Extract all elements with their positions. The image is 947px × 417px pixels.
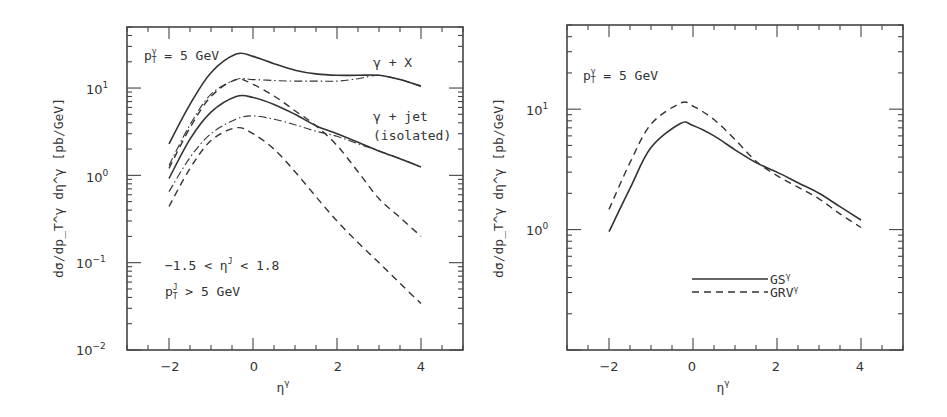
left-y-axis-label: dσ/dp_T^γ dη^γ [pb/GeV] <box>51 98 66 278</box>
xtick-label: 4 <box>856 359 864 374</box>
right-x-axis-label: ηγ <box>716 378 729 395</box>
annotation-isolated: (isolated) <box>373 128 451 143</box>
left-y-tick-labels: 101 100 10−1 10−2 <box>76 80 109 358</box>
left-panel: 101 100 10−1 10−2 −2 0 2 4 ηγ dσ/dp_T^γ … <box>51 27 463 395</box>
left-x-axis-label: ηγ <box>276 378 289 395</box>
ytick-label-10-0: 100 <box>86 168 109 185</box>
left-axis-ticks <box>127 27 463 350</box>
xtick-label: 4 <box>417 359 425 374</box>
xtick-label: 2 <box>334 359 342 374</box>
right-annotation-pt: pTγ = 5 GeV <box>583 67 658 85</box>
legend: GSγ GRVγ <box>692 272 798 300</box>
curve-dashed <box>609 102 861 228</box>
curve-dashed <box>169 128 421 304</box>
curve-dashed <box>169 79 421 236</box>
xtick-label: −2 <box>160 359 179 374</box>
ytick-label-10-m2: 10−2 <box>76 341 106 358</box>
xtick-label: 0 <box>688 359 696 374</box>
xtick-label: −2 <box>599 359 618 374</box>
figure: 101 100 10−1 10−2 −2 0 2 4 ηγ dσ/dp_T^γ … <box>0 0 947 417</box>
ytick-label-10-1: 101 <box>86 80 108 97</box>
annotation-gamma-x: γ + X <box>373 55 412 70</box>
right-curves <box>609 102 861 232</box>
ytick-label-10-0: 100 <box>526 221 549 238</box>
left-plot-frame <box>127 27 463 350</box>
annotation-gamma-jet: γ + jet <box>373 109 428 124</box>
right-y-axis-label: dσ/dp_T^γ dη^γ [pb/GeV] <box>491 98 506 278</box>
legend-label-grv: GRVγ <box>770 285 798 300</box>
xtick-label: 0 <box>250 359 258 374</box>
xtick-label: 2 <box>772 359 780 374</box>
ytick-label-10-1: 101 <box>526 101 548 118</box>
right-panel: 101 100 −2 0 2 4 ηγ dσ/dp_T^γ dη^γ [pb/G… <box>491 25 903 395</box>
left-annotation-pt: pTγ = 5 GeV <box>144 47 219 65</box>
annotation-pt-jet: pTJ > 5 GeV <box>165 283 240 301</box>
annotation-eta-jet-range: −1.5 < ηJ < 1.8 <box>165 257 279 273</box>
right-y-tick-labels: 101 100 <box>526 101 549 238</box>
ytick-label-10-m1: 10−1 <box>76 254 106 271</box>
right-x-tick-labels: −2 0 2 4 <box>599 359 864 374</box>
left-x-tick-labels: −2 0 2 4 <box>160 359 425 374</box>
curve-solid <box>609 122 861 232</box>
